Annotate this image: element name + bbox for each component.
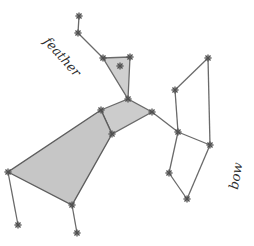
star-icon bbox=[14, 221, 21, 228]
star-icon bbox=[174, 128, 181, 135]
star-icon bbox=[97, 106, 104, 113]
star-icon bbox=[148, 108, 155, 115]
star-icon bbox=[171, 86, 178, 93]
star-icon bbox=[183, 195, 190, 202]
star-icon bbox=[4, 168, 11, 175]
star-icon bbox=[108, 130, 115, 137]
wing-fill bbox=[8, 110, 112, 205]
feather-triangle-fill bbox=[103, 57, 130, 99]
star-icon bbox=[204, 54, 211, 61]
star-icon bbox=[124, 95, 131, 102]
star-icon bbox=[126, 53, 133, 60]
star-icon bbox=[116, 62, 123, 69]
star-icon bbox=[165, 169, 172, 176]
star-icon bbox=[74, 29, 81, 36]
star-icon bbox=[99, 54, 106, 61]
star-icon bbox=[206, 141, 213, 148]
constellation-drawing bbox=[0, 0, 254, 246]
star-icon bbox=[68, 201, 75, 208]
star-icon bbox=[73, 229, 80, 236]
star-icon bbox=[75, 12, 82, 19]
